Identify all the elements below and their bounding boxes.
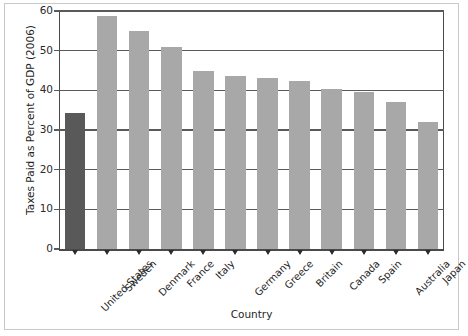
x-axis-tick-mark [232,250,238,255]
x-axis-tick-mark [104,250,110,255]
bar-germany[interactable] [225,76,246,249]
bar-denmark[interactable] [129,31,150,249]
x-axis-tick-mark [265,250,271,255]
y-axis-title: Taxes Paid as Percent of GDP (2006) [24,10,36,230]
x-axis-tick-mark [136,250,142,255]
x-axis-tick-mark [361,250,367,255]
bar-britain[interactable] [289,81,310,249]
bar-australia[interactable] [386,102,407,249]
bar-sweden[interactable] [97,16,118,249]
x-axis-line [59,249,444,251]
x-axis-tick-mark [425,250,431,255]
x-axis-tick-mark [168,250,174,255]
x-axis-title: Country [59,308,444,320]
y-axis-tick-label: 0 [7,243,53,254]
x-axis-tick-mark [72,250,78,255]
bar-united-states[interactable] [65,113,86,249]
x-axis-tick-mark [297,250,303,255]
bar-canada[interactable] [321,89,342,249]
bar-italy[interactable] [193,71,214,250]
bar-spain[interactable] [354,92,375,249]
x-axis-tick-mark [329,250,335,255]
x-axis-tick-mark [393,250,399,255]
bar-france[interactable] [161,47,182,249]
y-axis-tick-label-wrap: 0 [0,243,53,255]
bars-group [59,11,444,249]
x-axis-tick-mark [200,250,206,255]
bar-japan[interactable] [418,122,439,249]
bar-greece[interactable] [257,78,278,249]
